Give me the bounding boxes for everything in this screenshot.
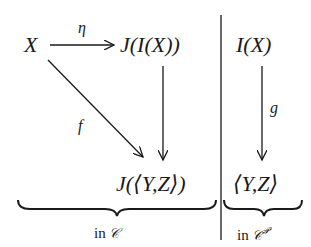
g-label: g xyxy=(270,100,278,116)
node-x: X xyxy=(24,34,37,56)
right-prefix: in xyxy=(237,227,252,243)
left-category: 𝒞 xyxy=(109,225,119,241)
node-i-x: I(X) xyxy=(236,34,271,56)
f-arrow xyxy=(48,60,143,157)
node-j-i-x: J(I(X)) xyxy=(120,34,180,56)
right-category: 𝒞 xyxy=(252,227,262,243)
node-j-yz: J(⟨Y,Z⟩) xyxy=(116,173,186,195)
right-brace xyxy=(224,200,302,216)
left-prefix: in xyxy=(94,225,109,241)
right-category-label: in 𝒞𝒫 xyxy=(237,226,269,243)
f-label: f xyxy=(78,118,82,134)
eta-label: η xyxy=(78,20,86,36)
left-brace xyxy=(18,200,216,216)
node-yz: ⟨Y,Z⟩ xyxy=(233,173,278,195)
right-superscript: 𝒫 xyxy=(262,225,269,236)
left-category-label: in 𝒞 xyxy=(94,226,119,241)
